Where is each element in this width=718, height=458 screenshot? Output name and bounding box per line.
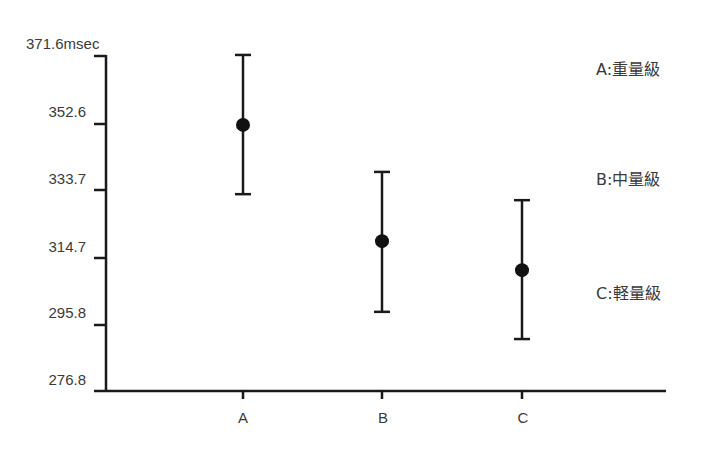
y-top-value: 371.6 — [26, 35, 64, 52]
error-bar-a — [235, 55, 251, 194]
error-bar-c — [514, 200, 530, 339]
legend-item-a: A:重量級 — [596, 62, 660, 78]
y-tick-label: 276.8 — [12, 372, 86, 387]
y-tick-label: 352.6 — [12, 104, 86, 119]
legend-item-b: B:中量級 — [596, 172, 660, 188]
x-tick-label-b: B — [368, 410, 398, 425]
y-tick-label: 295.8 — [12, 305, 86, 320]
x-tick-label-c: C — [508, 410, 538, 425]
y-tick-label: 314.7 — [12, 239, 86, 254]
x-tick-label-a: A — [228, 410, 258, 425]
mean-marker — [375, 234, 389, 248]
mean-marker — [515, 263, 529, 277]
y-unit-label: msec — [64, 35, 100, 52]
mean-marker — [236, 118, 250, 132]
error-bars — [235, 55, 530, 339]
y-tick-label-top: 371.6msec — [26, 36, 99, 51]
y-ticks — [94, 56, 106, 325]
error-bar-b — [374, 172, 390, 312]
y-tick-label: 333.7 — [12, 171, 86, 186]
legend-item-c: C:軽量級 — [596, 286, 661, 302]
